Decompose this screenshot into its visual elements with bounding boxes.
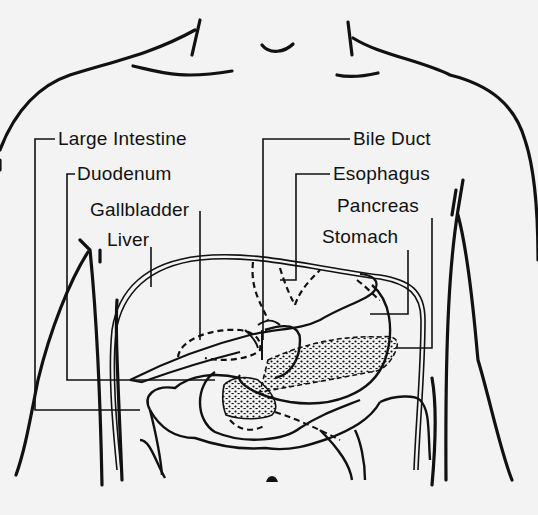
- gallbladder-shape: [178, 330, 260, 360]
- label-esophagus: Esophagus: [333, 163, 430, 185]
- navel: [266, 476, 278, 482]
- torso-illustration: [0, 0, 538, 515]
- label-stomach: Stomach: [322, 226, 398, 248]
- label-large-intestine: Large Intestine: [58, 128, 187, 150]
- anatomy-diagram: Large Intestine Duodenum Gallbladder Liv…: [0, 0, 538, 515]
- label-duodenum: Duodenum: [77, 163, 172, 185]
- large-intestine-shape: [140, 375, 430, 480]
- label-gallbladder: Gallbladder: [90, 199, 189, 221]
- label-pancreas: Pancreas: [337, 195, 419, 217]
- label-liver: Liver: [107, 229, 149, 251]
- esophagus-shape: [253, 262, 380, 320]
- label-bile-duct: Bile Duct: [353, 128, 431, 150]
- pancreas-shape: [223, 337, 398, 419]
